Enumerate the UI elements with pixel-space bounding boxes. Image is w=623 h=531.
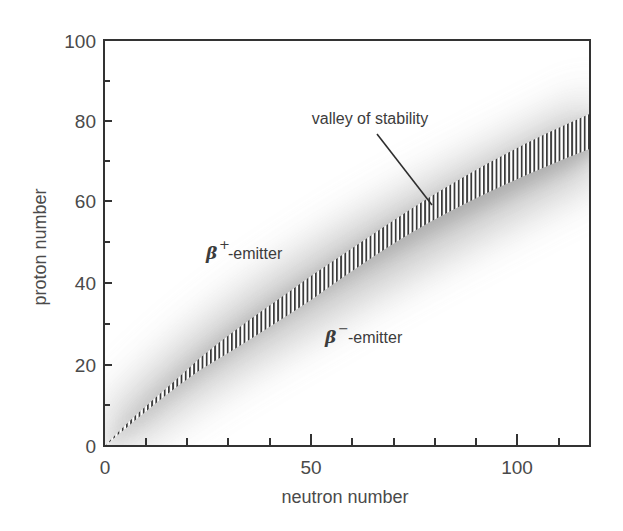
- y-tick-label-100: 100: [64, 31, 96, 52]
- x-axis-label: neutron number: [281, 487, 408, 507]
- x-tick-label-50: 50: [300, 457, 321, 478]
- y-tick-label-40: 40: [75, 273, 96, 294]
- chart: 0 50 100 0 20 40 60 80 100 neutron numbe…: [0, 0, 623, 531]
- y-tick-label-80: 80: [75, 111, 96, 132]
- y-tick-label-0: 0: [85, 436, 96, 457]
- beta-symbol: β: [324, 327, 336, 347]
- beta-symbol: β: [205, 243, 217, 263]
- valley-of-stability-label: valley of stability: [312, 110, 429, 127]
- y-axis-label: proton number: [30, 188, 50, 305]
- x-tick-label-0: 0: [100, 457, 111, 478]
- x-tick-label-100: 100: [501, 457, 533, 478]
- emitter-text: -emitter: [228, 245, 283, 262]
- y-tick-label-20: 20: [75, 355, 96, 376]
- emitter-text: -emitter: [348, 329, 403, 346]
- y-tick-label-60: 60: [75, 191, 96, 212]
